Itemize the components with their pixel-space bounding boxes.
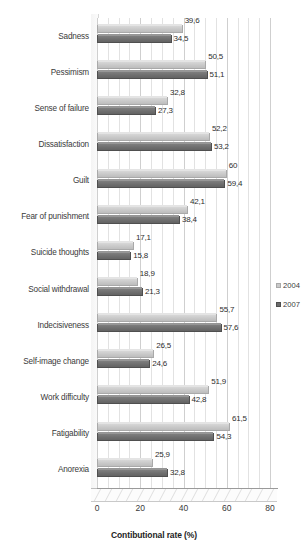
legend-item-2004[interactable]: 2004 <box>276 281 300 290</box>
bar-value-label: 18,9 <box>140 269 155 278</box>
bar-value-label: 17,1 <box>136 233 151 242</box>
bar-2007[interactable] <box>97 324 222 332</box>
row-bars: 32,827,3 <box>97 90 270 126</box>
category-label: Suicide thoughts <box>0 248 89 257</box>
bar-value-label: 53,2 <box>214 142 229 151</box>
floor-line <box>245 489 252 501</box>
bar-value-label: 59,4 <box>227 179 242 188</box>
row-bars: 50,551,1 <box>97 54 270 90</box>
bar-2004[interactable] <box>97 97 168 105</box>
floor-line <box>169 489 176 501</box>
bar-value-label: 26,5 <box>156 341 171 350</box>
category-label: Sense of failure <box>0 104 89 113</box>
category-label: Dissatisfaction <box>0 140 89 149</box>
bar-2004[interactable] <box>97 386 209 394</box>
floor-line <box>224 489 231 501</box>
bar-2004[interactable] <box>97 242 134 250</box>
category-label: Fatigability <box>0 429 89 438</box>
bar-2007[interactable] <box>97 180 225 188</box>
bar-value-label: 52,2 <box>212 124 227 133</box>
floor-line <box>137 489 144 501</box>
bar-2004[interactable] <box>97 61 206 69</box>
row-bars: 6059,4 <box>97 163 270 199</box>
category-label: Pessimism <box>0 68 89 77</box>
bar-2007[interactable] <box>97 252 131 260</box>
chart-floor <box>91 488 277 502</box>
bar-value-label: 51,9 <box>211 377 226 386</box>
chart-row: Work difficulty51,942,8 <box>0 379 308 415</box>
chart-row: Fatigability61,554,3 <box>0 416 308 452</box>
x-axis-line <box>97 488 278 489</box>
chart-row: Social withdrawal18,921,3 <box>0 271 308 307</box>
legend-swatch-icon-2004 <box>276 283 281 288</box>
x-tick-label: 0 <box>95 503 100 513</box>
bar-value-label: 24,6 <box>152 359 167 368</box>
x-tick-label: 40 <box>179 503 188 513</box>
bar-value-label: 42,1 <box>190 197 205 206</box>
bar-value-label: 50,5 <box>208 52 223 61</box>
bar-value-label: 55,7 <box>219 305 234 314</box>
bar-2007[interactable] <box>97 469 168 477</box>
bar-value-label: 21,3 <box>145 287 160 296</box>
chart-row: Self-image change26,524,6 <box>0 343 308 379</box>
floor-line <box>105 489 112 501</box>
floor-line <box>213 489 220 501</box>
floor-line <box>94 489 101 501</box>
x-tick-label: 60 <box>222 503 231 513</box>
legend-swatch-icon-2007 <box>276 302 281 307</box>
bar-2004[interactable] <box>97 133 210 141</box>
bar-value-label: 25,9 <box>155 450 170 459</box>
bar-value-label: 61,5 <box>232 414 247 423</box>
bar-2007[interactable] <box>97 71 208 79</box>
row-bars: 61,554,3 <box>97 416 270 452</box>
category-label: Fear of punishment <box>0 212 89 221</box>
bar-2007[interactable] <box>97 396 190 404</box>
bar-2007[interactable] <box>97 143 212 151</box>
bar-2004[interactable] <box>97 206 188 214</box>
bar-value-label: 60 <box>229 161 238 170</box>
bar-2004[interactable] <box>97 350 154 358</box>
bar-2004[interactable] <box>97 314 217 322</box>
x-axis-title: Contibutional rate (%) <box>0 530 308 540</box>
legend-item-2007[interactable]: 2007 <box>276 300 300 309</box>
chart-row: Suicide thoughts17,115,8 <box>0 235 308 271</box>
bar-value-label: 54,3 <box>216 432 231 441</box>
category-label: Work difficulty <box>0 393 89 402</box>
bar-2007[interactable] <box>97 216 180 224</box>
floor-line <box>180 489 187 501</box>
chart-row: Indecisiveness55,757,6 <box>0 307 308 343</box>
bar-2007[interactable] <box>97 433 214 441</box>
bar-2004[interactable] <box>97 459 153 467</box>
x-axis-ticks: 020406080 <box>0 503 308 517</box>
x-tick-label: 20 <box>136 503 145 513</box>
floor-line <box>115 489 122 501</box>
bar-2007[interactable] <box>97 288 143 296</box>
row-bars: 17,115,8 <box>97 235 270 271</box>
bar-2004[interactable] <box>97 423 230 431</box>
floor-line <box>234 489 241 501</box>
chart-row: Fear of punishment42,138,4 <box>0 199 308 235</box>
chart-row: Sadness39,634,5 <box>0 18 308 54</box>
floor-line <box>191 489 198 501</box>
row-bars: 55,757,6 <box>97 307 270 343</box>
category-label: Indecisiveness <box>0 321 89 330</box>
row-bars: 39,634,5 <box>97 18 270 54</box>
bar-value-label: 38,4 <box>182 215 197 224</box>
floor-line <box>159 489 166 501</box>
bar-2007[interactable] <box>97 35 172 43</box>
bar-2004[interactable] <box>97 25 183 33</box>
bar-value-label: 34,5 <box>174 34 189 43</box>
chart-legend: 2004 2007 <box>276 281 300 319</box>
bar-value-label: 27,3 <box>158 106 173 115</box>
category-label: Guilt <box>0 176 89 185</box>
chart-row: Guilt6059,4 <box>0 163 308 199</box>
floor-line <box>256 489 263 501</box>
bar-2004[interactable] <box>97 278 138 286</box>
bar-2007[interactable] <box>97 107 156 115</box>
bar-value-label: 32,8 <box>170 468 185 477</box>
bar-2004[interactable] <box>97 170 227 178</box>
chart-row: Pessimism50,551,1 <box>0 54 308 90</box>
bar-2007[interactable] <box>97 360 150 368</box>
legend-label-2004: 2004 <box>283 281 300 290</box>
bar-value-label: 39,6 <box>185 16 200 25</box>
